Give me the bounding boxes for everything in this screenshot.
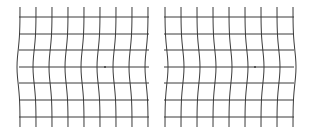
grid-diagram-svg bbox=[0, 0, 310, 133]
distortion-grid-diagram bbox=[0, 0, 310, 133]
fixation-dot bbox=[104, 66, 106, 68]
right-distorted-grid bbox=[164, 7, 296, 127]
left-distorted-grid bbox=[17, 7, 149, 127]
fixation-dot bbox=[254, 66, 256, 68]
